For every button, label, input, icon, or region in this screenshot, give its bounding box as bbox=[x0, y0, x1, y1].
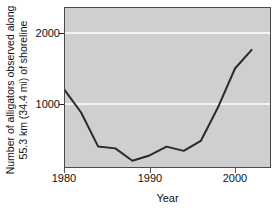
y-axis-title: Number of alligators observed along 55.3… bbox=[0, 0, 34, 180]
y-tick-label-2000: 2000 bbox=[30, 28, 60, 39]
x-tick-label-1990: 1990 bbox=[130, 172, 170, 184]
y-tick-label-1000: 1000 bbox=[30, 99, 60, 110]
x-axis-title: Year bbox=[64, 192, 271, 204]
chart-canvas bbox=[65, 8, 270, 167]
chart-figure: Number of alligators observed along 55.3… bbox=[0, 0, 279, 216]
y-axis-title-line1: Number of alligators observed along bbox=[4, 6, 17, 175]
x-tick-label-2000: 2000 bbox=[215, 172, 255, 184]
data-series-line bbox=[65, 49, 252, 160]
plot-area bbox=[64, 7, 271, 168]
y-axis-title-text: Number of alligators observed along 55.3… bbox=[4, 6, 30, 175]
y-axis-title-line2: 55.3 km (34.4 mi) of shoreline bbox=[17, 6, 30, 175]
x-tick-label-1980: 1980 bbox=[44, 172, 84, 184]
